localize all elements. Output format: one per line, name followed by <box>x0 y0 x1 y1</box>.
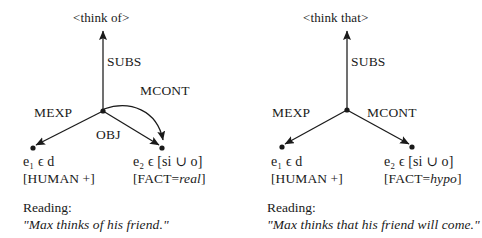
node-dot-e1 <box>279 144 284 149</box>
node-features-e2-prefix: [FACT= <box>384 171 430 186</box>
node-dot-e2 <box>409 144 414 149</box>
junction-node-dot <box>344 107 349 112</box>
semantic-network-figure: <think of> SUBS MEXP OBJ MCONT e₁ ϵ d [H… <box>0 0 482 238</box>
node-features-e1: [HUMAN +] <box>23 172 95 186</box>
node-features-e2-prefix: [FACT= <box>133 171 179 186</box>
node-features-e2-value: real <box>179 171 201 186</box>
node-term-e1-text: e₁ ϵ d <box>271 154 302 169</box>
node-term-e2: e₂ ϵ [si ∪ o] <box>133 155 202 169</box>
node-features-e2: [FACT=hypo] <box>384 172 461 186</box>
root-predicate-label: <think of> <box>73 11 129 24</box>
node-features-e2: [FACT=real] <box>133 172 205 186</box>
edge-label-mexp: MEXP <box>272 106 310 120</box>
diagram-think-of: <think of> SUBS MEXP OBJ MCONT e₁ ϵ d [H… <box>0 0 241 238</box>
node-dot-e1 <box>30 145 35 150</box>
diagram-think-that: <think that> SUBS MEXP MCONT e₁ ϵ d [HUM… <box>241 0 482 238</box>
node-features-e1: [HUMAN +] <box>271 172 343 186</box>
node-term-e1: e₁ ϵ d <box>23 155 54 169</box>
junction-node-dot <box>100 108 105 113</box>
node-dot-e2 <box>159 145 164 150</box>
edge-label-subs: SUBS <box>351 55 386 69</box>
reading-heading: Reading: <box>267 201 316 215</box>
reading-heading: Reading: <box>23 201 72 215</box>
edge-label-mcont: MCONT <box>367 106 417 120</box>
node-term-e1: e₁ ϵ d <box>271 155 302 169</box>
reading-text: "Max thinks that his friend will come." <box>267 218 480 232</box>
root-predicate-label: <think that> <box>303 11 368 24</box>
node-features-e2-suffix: ] <box>201 171 206 186</box>
reading-text: "Max thinks of his friend." <box>23 218 169 232</box>
node-term-e2-text: e₂ ϵ [si ∪ o] <box>133 154 202 169</box>
node-features-e2-value: hypo <box>430 171 457 186</box>
node-features-e2-suffix: ] <box>457 171 462 186</box>
edge-label-mexp: MEXP <box>34 106 72 120</box>
node-term-e2: e₂ ϵ [si ∪ o] <box>384 155 453 169</box>
edge-label-subs: SUBS <box>107 55 142 69</box>
node-term-e1-text: e₁ ϵ d <box>23 154 54 169</box>
edge-label-mcont: MCONT <box>140 84 190 98</box>
node-term-e2-text: e₂ ϵ [si ∪ o] <box>384 154 453 169</box>
edge-label-obj: OBJ <box>96 128 121 142</box>
